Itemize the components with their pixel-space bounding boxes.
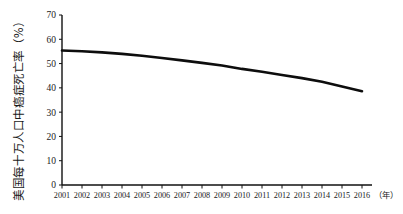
x-tick-label: 2002 bbox=[74, 191, 90, 200]
x-tick-label: 2003 bbox=[94, 191, 110, 200]
x-axis-unit-label: （年） bbox=[374, 190, 398, 200]
chart-figure: 美国每十万人口中癌症死亡率（%） 010203040506070 2001200… bbox=[0, 0, 403, 214]
line-chart-plot: 010203040506070 200120022003200420052006… bbox=[0, 0, 403, 214]
y-tick-label: 50 bbox=[47, 59, 57, 69]
x-tick-label: 2012 bbox=[274, 191, 290, 200]
y-tick-label: 0 bbox=[51, 180, 56, 190]
x-tick-label: 2006 bbox=[154, 191, 170, 200]
y-tick-label: 70 bbox=[47, 10, 57, 20]
x-tick-label: 2011 bbox=[254, 191, 270, 200]
x-tick-label: 2014 bbox=[314, 191, 330, 200]
x-tick-label: 2005 bbox=[134, 191, 150, 200]
y-tick-label: 20 bbox=[47, 132, 57, 142]
x-tick-label: 2009 bbox=[214, 191, 230, 200]
y-axis-ticks: 010203040506070 bbox=[47, 10, 63, 190]
x-tick-label: 2007 bbox=[174, 191, 190, 200]
x-tick-label: 2010 bbox=[234, 191, 250, 200]
x-tick-label: 2004 bbox=[114, 191, 130, 200]
x-tick-label: 2016 bbox=[354, 191, 370, 200]
x-axis-ticks: 2001200220032004200520062007200820092010… bbox=[54, 185, 370, 200]
x-tick-label: 2008 bbox=[194, 191, 210, 200]
y-tick-label: 60 bbox=[47, 35, 57, 45]
x-tick-label: 2001 bbox=[54, 191, 70, 200]
series-line-cancer-mortality bbox=[62, 50, 362, 91]
y-tick-label: 10 bbox=[47, 156, 57, 166]
x-tick-label: 2013 bbox=[294, 191, 310, 200]
y-tick-label: 30 bbox=[47, 108, 57, 118]
y-tick-label: 40 bbox=[47, 83, 57, 93]
x-tick-label: 2015 bbox=[334, 191, 350, 200]
